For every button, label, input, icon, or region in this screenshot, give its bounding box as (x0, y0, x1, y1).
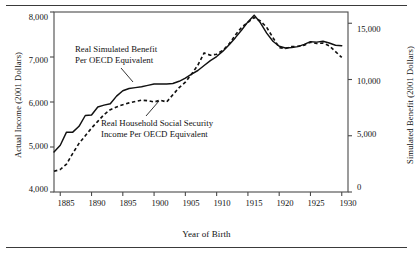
series-line-household-income (54, 17, 342, 171)
axis-tick-marks (50, 12, 352, 196)
series-line-simulated-benefit (54, 15, 342, 152)
plot-frame (54, 12, 348, 192)
leader-line-simulated (121, 68, 133, 82)
leader-line-household (146, 101, 159, 116)
